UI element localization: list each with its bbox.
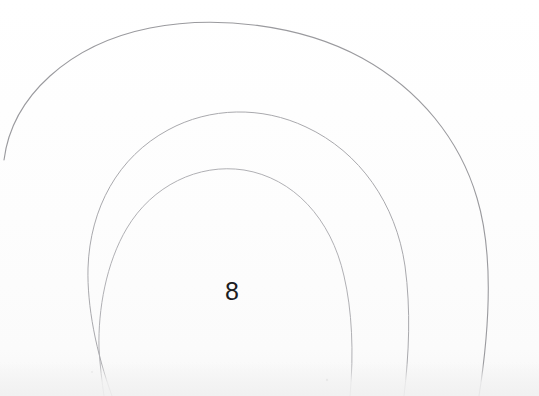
scanned-page: 8: [0, 0, 539, 396]
center-digit-label: 8: [225, 279, 239, 304]
dust-speck-1: [326, 379, 328, 381]
dust-speck-2: [91, 371, 93, 373]
middle-ring-arc: [88, 112, 409, 396]
concentric-arcs-drawing: [0, 0, 539, 396]
outer-ring-arc: [4, 22, 489, 396]
